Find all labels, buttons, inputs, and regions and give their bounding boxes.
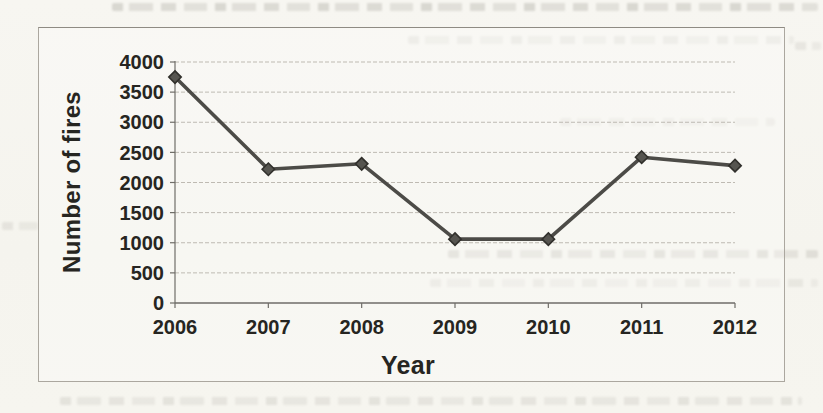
- data-point-marker: [729, 159, 741, 171]
- y-tick-label: 2000: [120, 172, 165, 194]
- y-tick-label: 2500: [120, 142, 165, 164]
- fires-line-chart: 0500100015002000250030003500400020062007…: [0, 0, 823, 413]
- y-tick-label: 1000: [120, 232, 165, 254]
- x-tick-label: 2008: [339, 316, 384, 338]
- x-tick-label: 2012: [713, 316, 758, 338]
- x-tick-label: 2010: [526, 316, 571, 338]
- x-tick-label: 2009: [433, 316, 478, 338]
- y-tick-label: 3500: [120, 81, 165, 103]
- scanned-page: Number of fires Year 0500100015002000250…: [0, 0, 823, 413]
- x-tick-label: 2007: [246, 316, 291, 338]
- y-tick-label: 3000: [120, 111, 165, 133]
- data-line: [175, 77, 735, 239]
- y-tick-label: 500: [131, 262, 164, 284]
- y-tick-label: 1500: [120, 202, 165, 224]
- y-tick-label: 4000: [120, 51, 165, 73]
- x-tick-label: 2011: [620, 316, 663, 338]
- x-tick-label: 2006: [153, 316, 198, 338]
- y-tick-label: 0: [153, 292, 164, 314]
